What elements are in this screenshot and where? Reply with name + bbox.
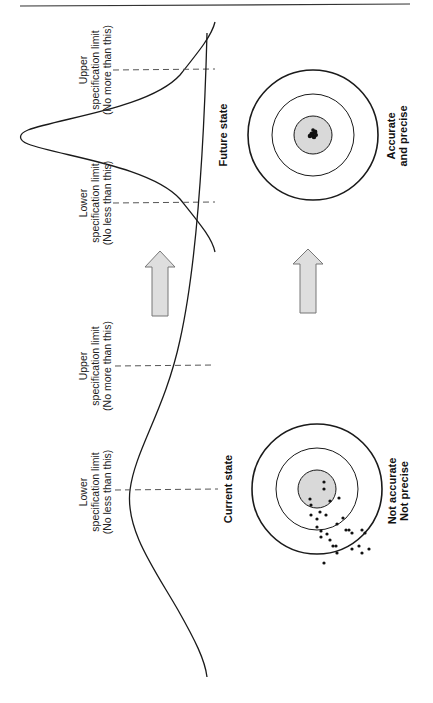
current-lsl-label-line2: specification limit bbox=[89, 432, 101, 552]
current-usl-label-line3: (No more than this) bbox=[101, 306, 113, 426]
current-target-caption-line1: Not accurate bbox=[386, 451, 398, 531]
current-usl-label: Upper specification limit (No more than … bbox=[77, 306, 113, 426]
current-usl-dashed-line bbox=[115, 365, 215, 366]
future-distribution-curve bbox=[21, 22, 216, 252]
current-lsl-label-line3: (No less than this) bbox=[101, 432, 113, 552]
current-target-caption: Not accurate Not precise bbox=[386, 451, 412, 531]
distribution-improvement-arrow-icon bbox=[145, 251, 175, 316]
current-usl-label-line2: specification limit bbox=[89, 306, 101, 426]
future-state-title: Future state bbox=[217, 95, 231, 175]
future-lsl-label-line2: specification limit bbox=[89, 143, 101, 263]
current-target-caption-line2: Not precise bbox=[398, 451, 410, 531]
current-lsl-label-line1: Lower bbox=[77, 432, 89, 552]
future-usl-label: Upper specification limit (No more than … bbox=[77, 10, 113, 130]
current-lsl-label: Lower specification limit (No less than … bbox=[77, 432, 113, 552]
future-target-caption: Accurate and precise bbox=[385, 96, 411, 176]
current-state-title: Current state bbox=[222, 444, 236, 534]
future-usl-label-line2: specification limit bbox=[89, 10, 101, 130]
future-lsl-label-line3: (No less than this) bbox=[101, 143, 113, 263]
future-usl-label-line3: (No more than this) bbox=[101, 10, 113, 130]
future-lsl-label-line1: Lower bbox=[77, 143, 89, 263]
future-lsl-label: Lower specification limit (No less than … bbox=[77, 143, 113, 263]
future-usl-label-line1: Upper bbox=[77, 10, 89, 130]
future-lsl-dashed-line bbox=[113, 202, 215, 203]
current-usl-label-line1: Upper bbox=[77, 306, 89, 426]
target-improvement-arrow-icon bbox=[293, 249, 323, 313]
future-target-caption-line1: Accurate bbox=[385, 96, 397, 176]
current-distribution-curve bbox=[129, 33, 207, 677]
top-rule bbox=[20, 4, 410, 6]
future-usl-dashed-line bbox=[113, 69, 215, 70]
future-target-caption-line2: and precise bbox=[397, 96, 409, 176]
